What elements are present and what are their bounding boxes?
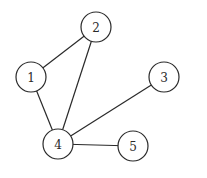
nodes: 1 2 3 4 5 — [16, 12, 179, 161]
node-5: 5 — [118, 131, 148, 161]
graph-diagram: 1 2 3 4 5 — [0, 0, 207, 178]
edge-2-4 — [58, 27, 96, 144]
node-label: 2 — [92, 21, 100, 35]
node-1: 1 — [16, 62, 46, 92]
edges — [31, 27, 164, 146]
node-2: 2 — [81, 12, 111, 42]
node-3: 3 — [149, 62, 179, 92]
node-label: 5 — [129, 140, 137, 154]
edge-3-4 — [58, 77, 164, 144]
node-label: 1 — [27, 71, 35, 85]
node-4: 4 — [43, 129, 73, 159]
node-label: 4 — [54, 138, 62, 152]
node-label: 3 — [160, 71, 168, 85]
